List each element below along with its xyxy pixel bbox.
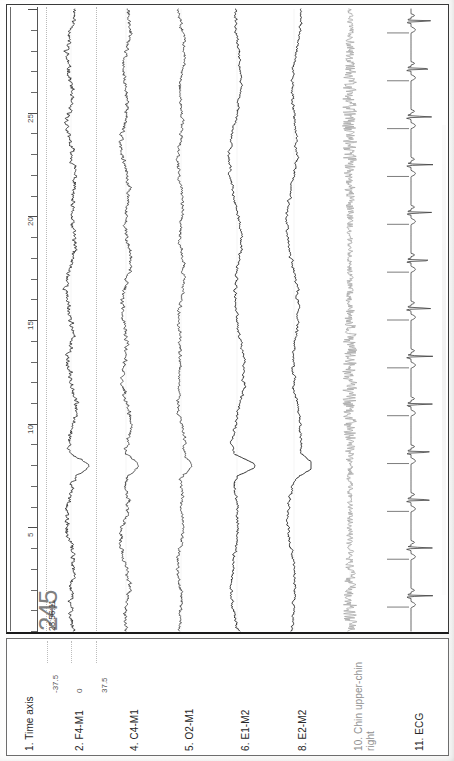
- trace-channel-6: [228, 9, 255, 631]
- psg-epoch-page: 510152025 245 23:56:11 -37.5037.5 1. Tim…: [0, 0, 454, 761]
- trace-channel-8: [286, 9, 311, 631]
- amplitude-scale-tick: [47, 641, 48, 663]
- amplitude-scale-tick: [96, 641, 97, 663]
- channel-label-5[interactable]: 5. O2-M1: [184, 709, 195, 751]
- channel-label-8[interactable]: 8. E2-M2: [297, 710, 308, 751]
- amplitude-scale-tick: [71, 641, 72, 663]
- trace-channel-2: [63, 9, 89, 631]
- channel-label-1[interactable]: 1. Time axis: [24, 696, 35, 751]
- channel-label-4[interactable]: 4. C4-M1: [129, 709, 140, 751]
- channel-label-2[interactable]: 2. F4-M1: [74, 710, 85, 751]
- amplitude-scale-label: 37.5: [100, 677, 109, 693]
- signal-traces: [7, 5, 449, 634]
- channel-label-10[interactable]: 10. Chin upper-chin: [353, 662, 364, 751]
- channel-label-10-line2[interactable]: right: [365, 731, 376, 751]
- amplitude-scale-label: 0: [75, 689, 84, 693]
- amplitude-scale-label: -37.5: [51, 675, 60, 693]
- trace-panel: 510152025 245 23:56:11: [6, 4, 449, 634]
- channel-label-panel: -37.5037.5 1. Time axis2. F4-M14. C4-M15…: [6, 638, 449, 756]
- trace-channel-4: [119, 9, 139, 631]
- trace-channel-5: [176, 9, 192, 631]
- channel-label-6[interactable]: 6. E1-M2: [240, 710, 251, 751]
- channel-label-11[interactable]: 11. ECG: [414, 713, 425, 751]
